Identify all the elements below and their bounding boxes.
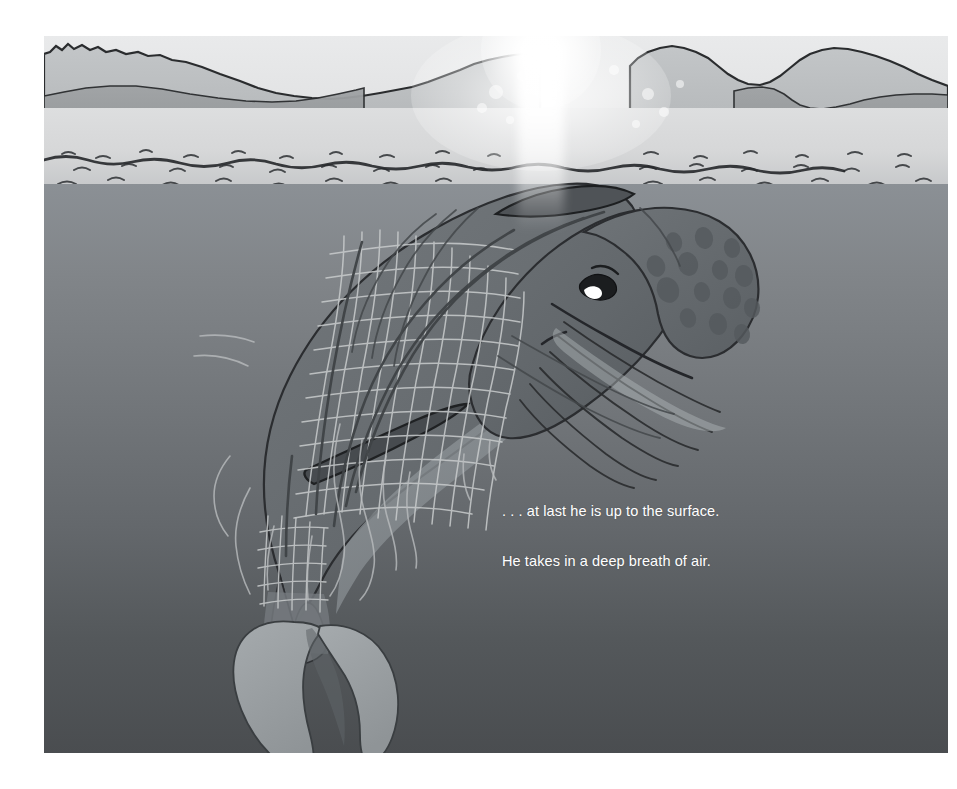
illustration-image: . . . at last he is up to the surface. H… [44, 36, 948, 753]
net-upper-strands [352, 208, 680, 438]
caption-text-block: . . . at last he is up to the surface. H… [502, 502, 882, 570]
net-mesh-tail [258, 516, 328, 612]
fishing-net-overlay [44, 36, 948, 753]
caption-line-2: He takes in a deep breath of air. [502, 552, 882, 570]
caption-line-1: . . . at last he is up to the surface. [502, 502, 882, 520]
net-mesh [294, 230, 524, 530]
page-canvas: . . . at last he is up to the surface. H… [0, 0, 957, 789]
